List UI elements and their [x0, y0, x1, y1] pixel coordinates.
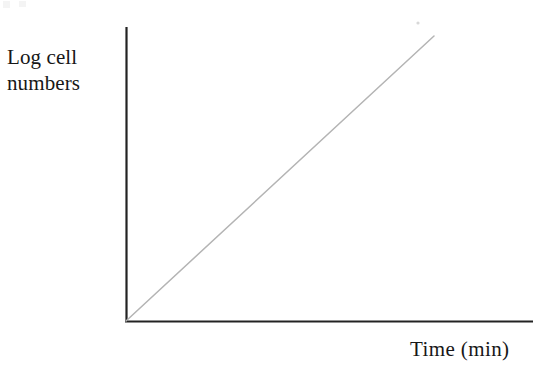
plot-area: [0, 0, 535, 368]
figure-root: Log cell numbers Time (min): [0, 0, 535, 368]
growth-data-line: [126, 36, 434, 321]
scan-artifact-corner: [19, 1, 26, 7]
scan-artifact-speck: [416, 21, 419, 24]
scan-artifact-corner: [3, 1, 10, 8]
